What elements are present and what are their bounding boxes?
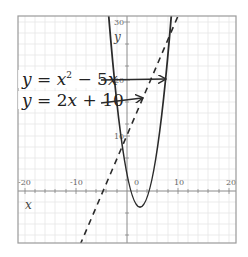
x-axis-label: x	[25, 198, 32, 212]
x-tick-label: 10	[174, 178, 184, 187]
y-axis-label: y	[113, 30, 121, 44]
x-tick-label: 0	[134, 178, 139, 187]
x-tick-label: -20	[18, 178, 31, 187]
arrow-parabola	[101, 79, 165, 80]
x-tick-label: 20	[226, 178, 236, 187]
y-tick-label: 10	[114, 132, 124, 141]
x-tick-label: -10	[70, 178, 83, 187]
y-tick-label: 30	[114, 18, 124, 27]
graph-canvas: -20 -10 0 10 20 10 20 30 x y y = x2 − 5x…	[0, 0, 248, 257]
equation-label-line: y = 2x + 10	[21, 90, 124, 110]
